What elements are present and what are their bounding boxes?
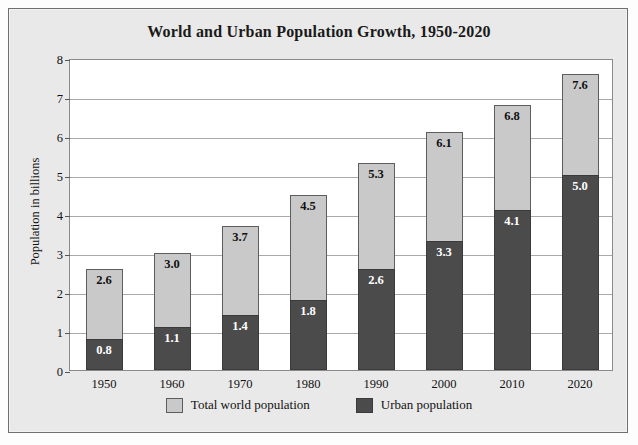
y-tick-mark [65, 216, 70, 217]
bar-group[interactable]: 2.60.81950 [86, 269, 123, 370]
y-tick-label: 2 [57, 287, 63, 302]
y-tick-mark [65, 333, 70, 334]
chart-title: World and Urban Population Growth, 1950-… [9, 23, 629, 41]
y-tick-label: 3 [57, 248, 63, 263]
legend-item[interactable]: Urban population [356, 397, 472, 413]
y-axis-label: Population in billions [28, 112, 43, 312]
legend-label: Urban population [381, 397, 472, 413]
legend-label: Total world population [191, 397, 310, 413]
y-tick-label: 1 [57, 326, 63, 341]
figure: World and Urban Population Growth, 1950-… [0, 0, 638, 445]
bar-segment-urban-population[interactable]: 1.8 [290, 300, 327, 370]
y-tick-mark [65, 138, 70, 139]
y-tick-label: 8 [57, 53, 63, 68]
bar-value-label-total: 7.6 [563, 78, 598, 93]
legend-swatch-urban [356, 398, 373, 413]
bar-value-label-total: 5.3 [359, 167, 394, 182]
bar-value-label-urban: 5.0 [563, 179, 598, 194]
bar-value-label-total: 3.0 [155, 257, 190, 272]
chart-frame: World and Urban Population Growth, 1950-… [8, 8, 628, 433]
y-tick-label: 4 [57, 209, 63, 224]
bar-value-label-total: 2.6 [87, 273, 122, 288]
x-tick-label: 2010 [500, 377, 525, 392]
y-tick-label: 0 [57, 365, 63, 380]
x-tick-label: 2020 [568, 377, 593, 392]
bar-group[interactable]: 6.84.12010 [494, 105, 531, 370]
x-tick-label: 1980 [296, 377, 321, 392]
bar-value-label-total: 4.5 [291, 199, 326, 214]
bar-value-label-urban: 3.3 [427, 245, 462, 260]
gridline [70, 333, 612, 334]
legend-item[interactable]: Total world population [166, 397, 310, 413]
y-tick-mark [65, 372, 70, 373]
gridline [70, 99, 612, 100]
chart-legend: Total world populationUrban population [9, 397, 629, 413]
x-tick-label: 2000 [432, 377, 457, 392]
bar-value-label-total: 6.1 [427, 136, 462, 151]
bar-segment-urban-population[interactable]: 0.8 [86, 339, 123, 370]
bar-segment-urban-population[interactable]: 5.0 [562, 175, 599, 370]
bar-value-label-urban: 2.6 [359, 273, 394, 288]
bar-value-label-urban: 1.4 [223, 319, 258, 334]
y-tick-label: 6 [57, 131, 63, 146]
y-tick-mark [65, 255, 70, 256]
gridline [70, 216, 612, 217]
bar-group[interactable]: 5.32.61990 [358, 163, 395, 370]
plot-area: 0123456782.60.819503.01.119603.71.419704… [69, 59, 613, 371]
bar-segment-urban-population[interactable]: 3.3 [426, 241, 463, 370]
y-tick-mark [65, 99, 70, 100]
bar-value-label-urban: 4.1 [495, 214, 530, 229]
bar-group[interactable]: 6.13.32000 [426, 132, 463, 370]
bar-value-label-total: 6.8 [495, 109, 530, 124]
y-tick-mark [65, 177, 70, 178]
x-tick-label: 1950 [92, 377, 117, 392]
bar-group[interactable]: 3.71.41970 [222, 226, 259, 370]
bar-value-label-total: 3.7 [223, 230, 258, 245]
bar-value-label-urban: 0.8 [87, 343, 122, 358]
gridline [70, 138, 612, 139]
gridline [70, 177, 612, 178]
x-tick-label: 1990 [364, 377, 389, 392]
y-tick-mark [65, 60, 70, 61]
bar-group[interactable]: 7.65.02020 [562, 74, 599, 370]
y-tick-label: 5 [57, 170, 63, 185]
legend-swatch-total [166, 398, 183, 413]
x-tick-label: 1960 [160, 377, 185, 392]
bar-value-label-urban: 1.1 [155, 331, 190, 346]
bar-group[interactable]: 3.01.11960 [154, 253, 191, 370]
y-tick-label: 7 [57, 92, 63, 107]
gridline [70, 255, 612, 256]
x-tick-label: 1970 [228, 377, 253, 392]
bar-segment-urban-population[interactable]: 1.1 [154, 327, 191, 370]
bar-value-label-urban: 1.8 [291, 304, 326, 319]
bar-segment-urban-population[interactable]: 1.4 [222, 315, 259, 370]
bar-segment-urban-population[interactable]: 4.1 [494, 210, 531, 370]
bar-segment-urban-population[interactable]: 2.6 [358, 269, 395, 370]
gridline [70, 294, 612, 295]
bar-group[interactable]: 4.51.81980 [290, 195, 327, 371]
y-tick-mark [65, 294, 70, 295]
